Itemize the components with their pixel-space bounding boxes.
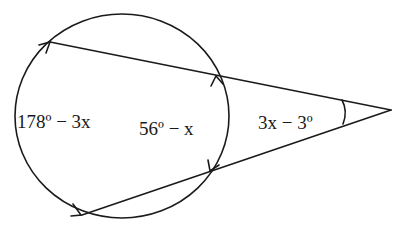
bottom-secant (82, 110, 391, 215)
far-arc-label: 178º − 3x (17, 111, 91, 132)
secant-angle-diagram: 178º − 3x 56º − x 3x − 3º (0, 0, 395, 232)
far-arc-top-arrow-icon (39, 42, 50, 53)
angle-arc (342, 100, 345, 124)
angle-label: 3x − 3º (258, 112, 313, 133)
near-arc-label: 56º − x (139, 118, 194, 139)
top-secant (50, 42, 391, 110)
